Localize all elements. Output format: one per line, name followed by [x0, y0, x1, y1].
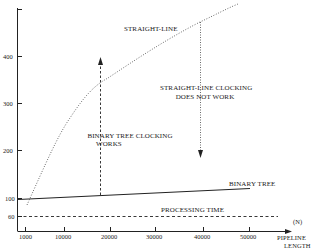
x-title-line2: LENGTH [284, 242, 311, 250]
x-tick-40000: 40000 [194, 233, 210, 240]
x-ticks [26, 227, 250, 231]
x-tick-20000: 20000 [101, 233, 117, 240]
y-tick-60: 60 [8, 213, 15, 220]
bt-works-line2: WORKS [96, 140, 122, 148]
sl-fails-line1: STRAIGHT-LINE CLOCKING [160, 84, 250, 92]
x-tick-1000: 1000 [19, 233, 32, 240]
y-tick-200: 200 [3, 147, 13, 154]
processing-time-label: PROCESSING TIME [161, 206, 224, 214]
x-title-line1: PIPELINE [277, 234, 306, 242]
x-unit-label: (N) [293, 218, 302, 226]
bt-works-line1: BINARY TREE CLOCKING [80, 132, 180, 140]
y-tick-100: 100 [5, 195, 15, 202]
x-tick-10000: 10000 [55, 233, 71, 240]
chart-canvas [0, 0, 317, 251]
y-tick-300: 300 [3, 100, 13, 107]
straight-line-label: STRAIGHT-LINE [124, 25, 178, 33]
x-tick-50000: 50000 [240, 233, 256, 240]
up-arrow-icon [98, 57, 103, 65]
y-tick-400: 400 [3, 53, 13, 60]
binary-tree-line [18, 189, 250, 200]
binary-tree-label: BINARY TREE [229, 180, 275, 188]
straight-line-curve [27, 4, 238, 205]
down-arrow-icon [198, 150, 203, 158]
sl-fails-line2: DOES NOT WORK [160, 93, 250, 101]
y-ticks [18, 10, 23, 217]
x-tick-30000: 30000 [146, 233, 162, 240]
